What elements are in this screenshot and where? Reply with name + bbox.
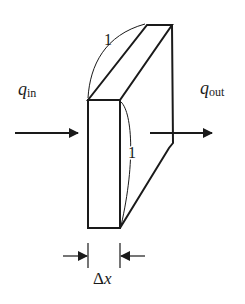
slab-front-face	[88, 100, 120, 228]
thickness-dimension	[63, 243, 145, 268]
height-dimension-label: 1	[128, 144, 136, 161]
q-in-label: qin	[18, 79, 36, 100]
slab-top-face	[88, 25, 172, 100]
slab-right-face	[120, 25, 173, 228]
height-dimension-arc	[120, 101, 131, 226]
depth-dimension-arc	[88, 24, 145, 98]
slab-diagram: 1 1 qin qout Δx	[0, 0, 245, 304]
thickness-label: Δx	[93, 269, 112, 288]
depth-dimension-label: 1	[104, 31, 112, 48]
q-out-label: qout	[200, 78, 225, 99]
